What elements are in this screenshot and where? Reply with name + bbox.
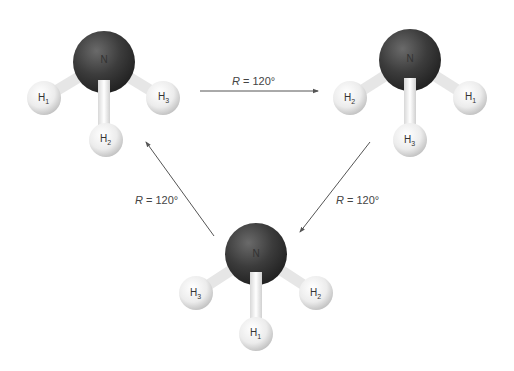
rotation-diagram: N H1 H2 H3 N H2 H3 H1 N H3 H1 H2 (0, 0, 514, 371)
atom-label: N (100, 54, 107, 65)
rotation-label-right: R = 120° (336, 194, 379, 206)
molecule-bottom: N H3 H1 H2 (179, 223, 333, 351)
arrow-right (300, 142, 370, 232)
molecule-top-right: N H2 H3 H1 (333, 29, 487, 157)
rotation-label-left: R = 120° (135, 194, 178, 206)
molecule-top-left: N H1 H2 H3 (27, 31, 180, 157)
atom-label: N (406, 53, 413, 64)
rotation-label-top: R = 120° (232, 75, 275, 87)
arrow-left (146, 142, 214, 236)
atom-label: N (252, 248, 259, 259)
